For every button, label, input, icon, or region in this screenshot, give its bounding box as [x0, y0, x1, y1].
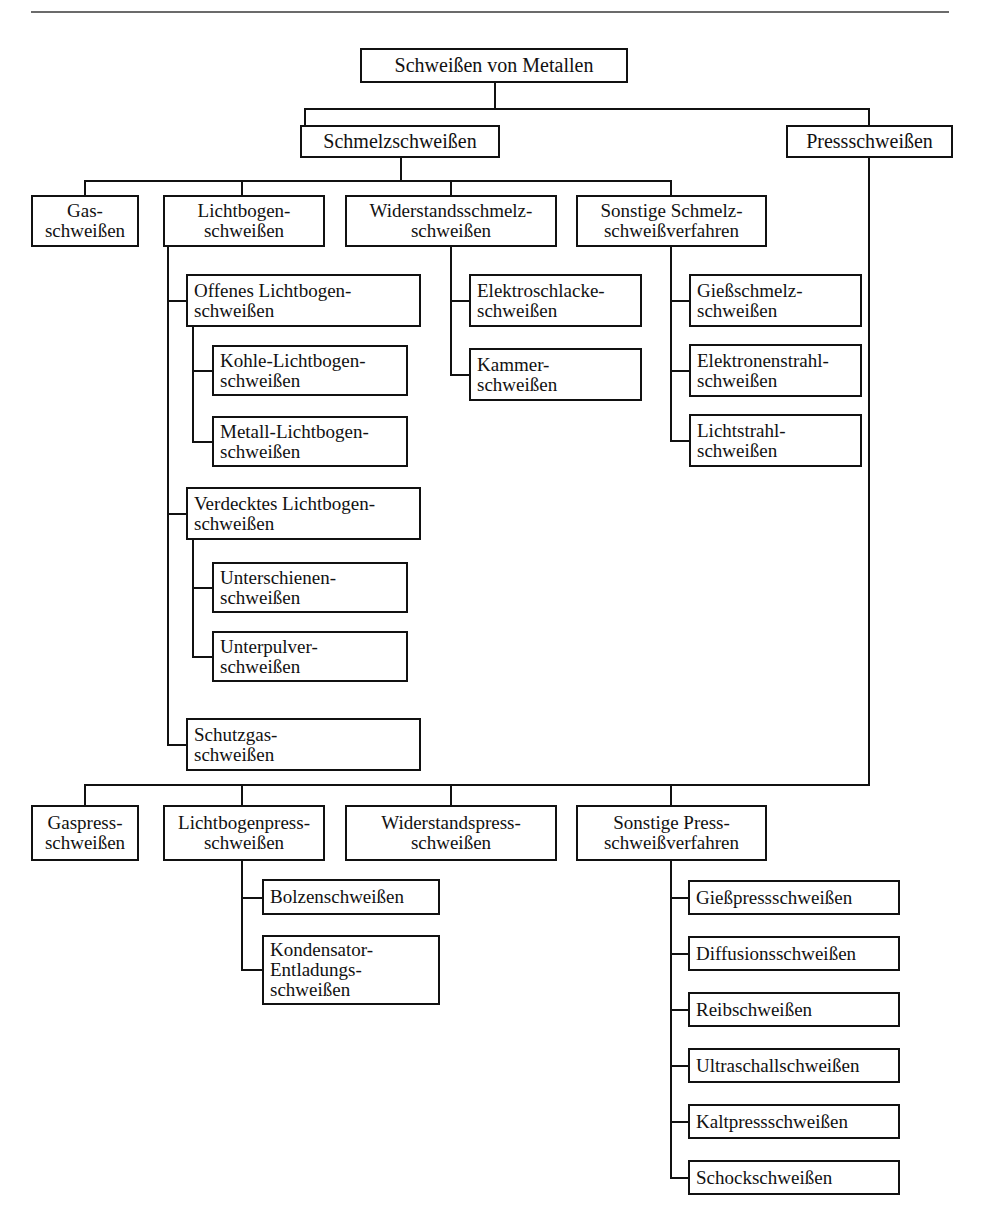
node-label-line: Lichtbogen-: [198, 201, 291, 221]
node-elektronenstrahlschweissen[interactable]: Elektronenstrahl- schweißen: [689, 344, 862, 397]
node-label-line: schweißen: [204, 221, 284, 241]
node-label-line: schweißen: [411, 221, 491, 241]
node-label-line: Sonstige Schmelz-: [601, 201, 743, 221]
node-label-line: Metall-Lichtbogen-: [220, 422, 369, 442]
rail-verdecktes-lb: [192, 540, 194, 658]
connector-to-widerstandspress: [450, 784, 452, 805]
connector-verdecktes-lb: [167, 513, 188, 515]
connector-root-down: [494, 83, 496, 110]
node-verdecktes-lichtbogenschweissen[interactable]: Verdecktes Lichtbogen- schweißen: [186, 487, 421, 540]
node-label-line: schweißverfahren: [604, 833, 739, 853]
node-label-line: Unterpulver-: [220, 637, 318, 657]
connector-to-gaspress: [84, 784, 86, 805]
node-label-line: Lichtstrahl-: [697, 421, 786, 441]
node-label-line: Elektronenstrahl-: [697, 351, 829, 371]
node-label-line: Offenes Lichtbogen-: [194, 281, 351, 301]
node-unterpulverschweissen[interactable]: Unterpulver- schweißen: [212, 631, 408, 682]
node-elektroschlackeschweissen[interactable]: Elektroschlacke- schweißen: [469, 274, 642, 327]
node-widerstandspressschweissen[interactable]: Widerstandspress- schweißen: [345, 805, 557, 861]
node-label-line: Reibschweißen: [696, 1000, 812, 1020]
node-schutzgasschweissen[interactable]: Schutzgas- schweißen: [186, 718, 421, 771]
node-label-line: Schockschweißen: [696, 1168, 832, 1188]
node-label-line: schweißen: [45, 833, 125, 853]
connector-kaltpress: [670, 1121, 690, 1123]
node-sonstige-pressschweissverfahren[interactable]: Sonstige Press- schweißverfahren: [576, 805, 767, 861]
node-unterschienenschweissen[interactable]: Unterschienen- schweißen: [212, 562, 408, 613]
node-label-line: schweißverfahren: [604, 221, 739, 241]
connector-metall-lb: [192, 441, 214, 443]
connector-schock: [670, 1177, 690, 1179]
node-label-line: schweißen: [270, 980, 350, 1000]
node-label-line: schweißen: [220, 657, 300, 677]
node-schockschweissen[interactable]: Schockschweißen: [688, 1160, 900, 1195]
connector-kohle-lb: [192, 370, 214, 372]
connector-to-gas: [84, 180, 86, 195]
node-ultraschallschweissen[interactable]: Ultraschallschweißen: [688, 1048, 900, 1083]
node-bolzenschweissen[interactable]: Bolzenschweißen: [262, 879, 440, 915]
node-gaspressschweissen[interactable]: Gaspress- schweißen: [31, 805, 139, 861]
node-giesspressschweissen[interactable]: Gießpressschweißen: [688, 880, 900, 915]
rail-offenes-lb: [192, 327, 194, 443]
node-schmelzschweissen[interactable]: Schmelzschweißen: [300, 125, 500, 158]
node-label-line: schweißen: [194, 745, 274, 765]
connector-bus-level2: [304, 108, 870, 110]
connector-offenes-lb: [167, 300, 188, 302]
connector-giesspress: [670, 897, 690, 899]
node-label-line: Unterschienen-: [220, 568, 336, 588]
connector-reib: [670, 1009, 690, 1011]
node-label-line: schweißen: [220, 588, 300, 608]
node-label-line: Schweißen von Metallen: [395, 55, 594, 76]
node-pressschweissen[interactable]: Pressschweißen: [786, 125, 953, 158]
node-label-line: Widerstandspress-: [381, 813, 521, 833]
node-label-line: Schmelzschweißen: [323, 131, 476, 152]
rail-sonstige-schmelz: [670, 246, 672, 442]
node-offenes-lichtbogenschweissen[interactable]: Offenes Lichtbogen- schweißen: [186, 274, 421, 327]
welding-process-taxonomy-diagram: Schweißen von Metallen Schmelzschweißen …: [0, 0, 981, 1209]
node-kaltpressschweissen[interactable]: Kaltpressschweißen: [688, 1104, 900, 1139]
node-lichtbogenpressschweissen[interactable]: Lichtbogenpress- schweißen: [163, 805, 325, 861]
rail-lichtbogen: [167, 246, 169, 746]
node-label-line: schweißen: [204, 833, 284, 853]
connector-to-lichtbogenpress: [241, 784, 243, 805]
node-reibschweissen[interactable]: Reibschweißen: [688, 992, 900, 1027]
node-label-line: schweißen: [45, 221, 125, 241]
node-kondensator-entladungsschweissen[interactable]: Kondensator- Entladungs- schweißen: [262, 935, 440, 1005]
node-sonstige-schmelzschweissverfahren[interactable]: Sonstige Schmelz- schweißverfahren: [576, 195, 767, 247]
node-root-schweissen-von-metallen[interactable]: Schweißen von Metallen: [360, 48, 628, 83]
node-label-line: Verdecktes Lichtbogen-: [194, 494, 375, 514]
connector-bolzen: [241, 897, 263, 899]
node-gasschweissen[interactable]: Gas- schweißen: [31, 195, 139, 247]
rail-widerstandsschmelz: [450, 246, 452, 376]
node-label-line: schweißen: [220, 442, 300, 462]
rail-sonstige-press: [670, 861, 672, 1178]
node-label-line: schweißen: [220, 371, 300, 391]
node-label-line: Lichtbogenpress-: [178, 813, 310, 833]
node-lichtbogenschweissen[interactable]: Lichtbogen- schweißen: [163, 195, 325, 247]
node-lichtstrahlschweissen[interactable]: Lichtstrahl- schweißen: [689, 414, 862, 467]
rail-lichtbogenpress: [241, 861, 243, 971]
connector-to-sonstige-press: [670, 784, 672, 805]
connector-kondensator: [241, 969, 263, 971]
node-kohle-lichtbogenschweissen[interactable]: Kohle-Lichtbogen- schweißen: [212, 345, 408, 396]
node-label-line: Gießpressschweißen: [696, 888, 852, 908]
connector-unterschienen: [192, 587, 214, 589]
node-label-line: schweißen: [411, 833, 491, 853]
node-label-line: Entladungs-: [270, 960, 362, 980]
node-label-line: Schutzgas-: [194, 725, 277, 745]
node-widerstandsschmelzschweissen[interactable]: Widerstandsschmelz- schweißen: [345, 195, 557, 247]
connector-to-schmelz: [304, 108, 306, 125]
connector-unterpulver: [192, 656, 214, 658]
connector-schmelz-down: [400, 157, 402, 182]
rail-press-drop: [868, 157, 870, 785]
node-label-line: Gas-: [67, 201, 103, 221]
node-giessschmelzschweissen[interactable]: Gießschmelz- schweißen: [689, 274, 862, 327]
connector-elektronenstrahl: [670, 370, 691, 372]
node-label-line: schweißen: [194, 514, 274, 534]
connector-to-lichtbogen: [241, 180, 243, 195]
node-label-line: schweißen: [194, 301, 274, 321]
node-kammerschweissen[interactable]: Kammer- schweißen: [469, 348, 642, 401]
node-label-line: Ultraschallschweißen: [696, 1056, 860, 1076]
node-metall-lichtbogenschweissen[interactable]: Metall-Lichtbogen- schweißen: [212, 416, 408, 467]
node-label-line: Kondensator-: [270, 940, 373, 960]
node-diffusionsschweissen[interactable]: Diffusionsschweißen: [688, 936, 900, 971]
